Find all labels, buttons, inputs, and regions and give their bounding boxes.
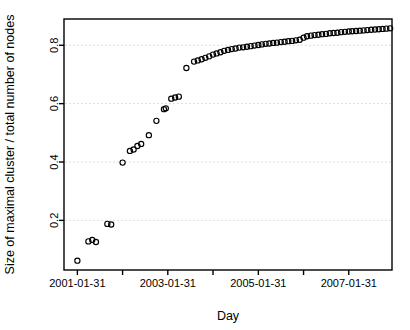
y-axis-title: Size of maximal cluster / total number o… [3, 15, 17, 275]
x-tick-label: 2001-01-31 [49, 277, 105, 289]
x-tick-label: 2007-01-31 [321, 277, 377, 289]
y-tick-label: 0.8 [48, 38, 60, 53]
chart-figure: 0.20.40.60.8 2001-01-312003-01-312005-01… [0, 0, 410, 330]
y-tick-label: 0.4 [48, 154, 60, 169]
x-tick-label: 2003-01-31 [140, 277, 196, 289]
x-tick-label: 2005-01-31 [230, 277, 286, 289]
y-tick-label: 0.6 [48, 96, 60, 111]
chart-canvas: 0.20.40.60.8 2001-01-312003-01-312005-01… [0, 0, 410, 330]
y-tick-label: 0.2 [48, 213, 60, 228]
x-axis-title: Day [217, 309, 240, 323]
